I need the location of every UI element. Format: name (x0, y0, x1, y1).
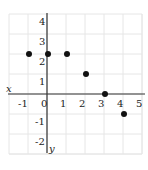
y-tick-label: -2 (35, 136, 45, 147)
x-tick-label: 1 (60, 98, 66, 109)
y-tick-label: 2 (39, 56, 45, 67)
x-axis-label: x (6, 83, 12, 94)
scatter-chart: -1012345-2-11234 x y (0, 0, 148, 170)
data-point (121, 111, 127, 117)
y-tick-label: 3 (39, 36, 45, 47)
x-tick-label: -1 (18, 98, 28, 109)
data-point (102, 91, 108, 97)
plot-area: -1012345-2-11234 x y (0, 0, 148, 170)
y-tick-label: 4 (39, 16, 45, 27)
x-tick-label: 4 (117, 98, 123, 109)
tick-labels: -1012345-2-11234 (18, 16, 142, 147)
y-tick-label: 1 (39, 76, 45, 87)
data-point (45, 51, 51, 57)
data-point (83, 71, 89, 77)
x-tick-label: 0 (41, 98, 47, 109)
x-tick-label: 5 (136, 98, 142, 109)
y-axis-label: y (48, 143, 55, 154)
data-point (26, 51, 32, 57)
grid-lines (9, 14, 142, 154)
x-tick-label: 3 (98, 98, 104, 109)
x-tick-label: 2 (79, 98, 85, 109)
data-point (64, 51, 70, 57)
y-tick-label: -1 (35, 116, 45, 127)
